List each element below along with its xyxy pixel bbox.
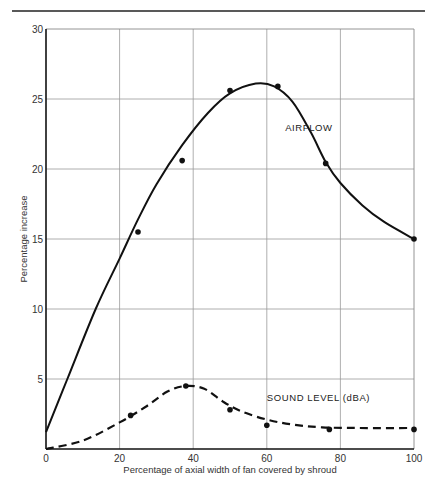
series-airflow: AIRFLOW xyxy=(46,83,417,432)
y-tick-label: 10 xyxy=(32,304,44,315)
x-axis-label: Percentage of axial width of fan covered… xyxy=(123,464,336,475)
x-axis-ticks: 020406080100 xyxy=(43,453,423,464)
data-point xyxy=(179,158,185,164)
x-tick-label: 40 xyxy=(188,453,200,464)
x-tick-label: 80 xyxy=(335,453,347,464)
data-point xyxy=(183,383,189,389)
x-tick-label: 0 xyxy=(43,453,49,464)
data-point xyxy=(227,88,233,94)
series-label: SOUND LEVEL (dBA) xyxy=(267,392,370,403)
data-point xyxy=(135,229,141,235)
data-point xyxy=(275,84,281,90)
x-tick-label: 60 xyxy=(261,453,273,464)
series-sound-level: SOUND LEVEL (dBA) xyxy=(46,383,417,449)
y-tick-label: 5 xyxy=(37,374,43,385)
line-chart: 020406080100 51015202530 Percentage of a… xyxy=(0,0,442,493)
data-point xyxy=(323,161,329,167)
y-tick-label: 20 xyxy=(32,164,44,175)
series-label: AIRFLOW xyxy=(285,122,332,133)
data-point xyxy=(411,236,417,242)
series-group: AIRFLOWSOUND LEVEL (dBA) xyxy=(46,83,417,449)
data-point xyxy=(128,413,134,419)
x-tick-label: 100 xyxy=(406,453,423,464)
data-point xyxy=(327,427,333,433)
data-point xyxy=(411,427,417,433)
y-axis-ticks: 51015202530 xyxy=(32,24,44,385)
data-point xyxy=(264,422,270,428)
data-point xyxy=(227,407,233,413)
y-tick-label: 15 xyxy=(32,234,44,245)
y-tick-label: 25 xyxy=(32,94,44,105)
y-axis-label: Percentage increase xyxy=(18,195,29,282)
x-tick-label: 20 xyxy=(114,453,126,464)
y-tick-label: 30 xyxy=(32,24,44,35)
series-curve xyxy=(46,83,414,432)
